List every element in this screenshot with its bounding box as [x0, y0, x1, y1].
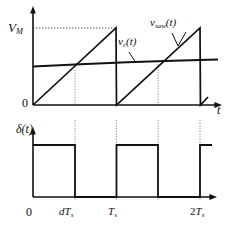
top-origin-label: 0	[22, 97, 28, 109]
x-tick-label-0: 0	[26, 206, 32, 218]
top-y-axis-arrow	[30, 6, 36, 14]
control-voltage-waveform	[33, 60, 218, 67]
x-tick-label-dts: dTs	[59, 206, 73, 219]
bottom-x-axis-arrow	[209, 194, 217, 200]
x-tick-label-ts: Ts	[108, 206, 117, 219]
duty-cycle-waveform	[33, 145, 212, 197]
bottom-plot-group	[30, 120, 217, 200]
top-x-axis-label: t	[217, 104, 220, 116]
bottom-y-axis-label: δ(t)	[16, 123, 33, 135]
waveform-figure: VM 0 t vsaw(t) vc(t) δ(t) 0 dTs Ts 2Ts	[0, 0, 231, 230]
series-label-vsaw: vsaw(t)	[150, 17, 176, 30]
x-tick-label-2ts: 2Ts	[190, 206, 204, 219]
series-label-vc: vc(t)	[118, 36, 136, 49]
top-plot-group	[30, 6, 222, 108]
waveform-canvas	[0, 0, 231, 230]
y-axis-label-vm: VM	[8, 21, 23, 36]
